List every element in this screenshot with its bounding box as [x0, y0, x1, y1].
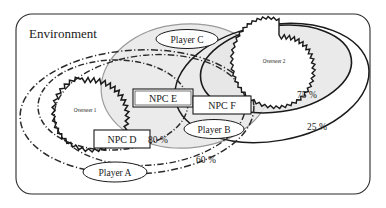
environment-title: Environment — [29, 26, 97, 41]
npc-d-label: NPC D — [107, 134, 136, 145]
percent-label-25: 25 % — [307, 122, 327, 132]
player-b-label: Player B — [198, 125, 231, 135]
overseer-1-label: Overseer 1 — [74, 107, 97, 113]
player-c-badge[interactable]: Player C — [156, 30, 218, 49]
npc-f-group[interactable]: NPC F — [193, 96, 251, 114]
environment-diagram: Overseer 1 Overseer 2 NPC E NPC F NPC D … — [0, 0, 386, 208]
npc-d-group[interactable]: NPC D — [94, 130, 150, 148]
npc-e-group[interactable]: NPC E — [133, 89, 193, 107]
diagram-canvas: Overseer 1 Overseer 2 NPC E NPC F NPC D … — [0, 0, 386, 208]
overseer-2-label: Overseer 2 — [263, 58, 286, 64]
player-a-label: Player A — [99, 168, 132, 178]
percent-label-80: 80 % — [148, 135, 168, 145]
percent-label-75: 75 % — [297, 90, 317, 100]
player-b-badge[interactable]: Player B — [184, 120, 244, 139]
npc-f-label: NPC F — [208, 100, 236, 111]
percent-label-60: 60 % — [196, 155, 216, 165]
npc-e-label: NPC E — [149, 93, 177, 104]
player-c-label: Player C — [171, 35, 204, 45]
player-a-badge[interactable]: Player A — [83, 162, 147, 182]
